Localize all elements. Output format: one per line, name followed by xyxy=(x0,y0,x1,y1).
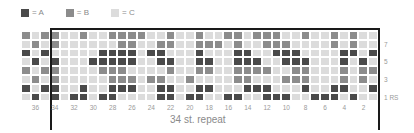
chart-cell xyxy=(31,75,41,84)
chart-cell xyxy=(40,84,50,93)
chart-cell xyxy=(40,40,50,49)
row-tick-label: 7 xyxy=(384,41,388,48)
chart-cell xyxy=(40,57,50,66)
column-tick-label: 30 xyxy=(83,104,103,111)
chart-cell xyxy=(21,49,31,58)
swatch-c xyxy=(111,9,119,17)
chart-cell xyxy=(40,31,50,40)
column-tick-label: 10 xyxy=(276,104,296,111)
chart-cell xyxy=(40,93,50,102)
column-tick-label: 34 xyxy=(45,104,65,111)
column-tick-label: 6 xyxy=(315,104,335,111)
legend: = A = B = C xyxy=(21,8,135,17)
column-tick-label: 4 xyxy=(334,104,354,111)
legend-item-c: = C xyxy=(111,8,135,17)
chart-cell xyxy=(21,31,31,40)
column-tick-label: 16 xyxy=(218,104,238,111)
column-tick-label: 8 xyxy=(296,104,316,111)
row-tick-label: 5 xyxy=(384,58,388,65)
chart-cell xyxy=(31,84,41,93)
row-tick-label: 3 xyxy=(384,76,388,83)
chart-cell xyxy=(21,75,31,84)
swatch-b xyxy=(66,9,74,17)
column-tick-label: 12 xyxy=(257,104,277,111)
column-tick-label: 26 xyxy=(122,104,142,111)
chart-cell xyxy=(21,84,31,93)
column-tick-label: 24 xyxy=(141,104,161,111)
column-tick-label: 28 xyxy=(103,104,123,111)
column-tick-label: 36 xyxy=(25,104,45,111)
chart-cell xyxy=(31,31,41,40)
legend-label-c: = C xyxy=(122,8,135,17)
chart-cell xyxy=(21,40,31,49)
swatch-a xyxy=(21,9,29,17)
column-tick-label: 32 xyxy=(64,104,84,111)
legend-label-a: = A xyxy=(32,8,44,17)
chart-cell xyxy=(31,66,41,75)
column-tick-label: 22 xyxy=(161,104,181,111)
chart-cell xyxy=(31,40,41,49)
chart-cell xyxy=(31,57,41,66)
column-tick-label: 18 xyxy=(199,104,219,111)
chart-cell xyxy=(40,75,50,84)
chart-cell xyxy=(31,49,41,58)
column-tick-label: 20 xyxy=(180,104,200,111)
row-tick-label: 1 RS xyxy=(384,94,398,101)
chart-cell xyxy=(21,57,31,66)
legend-label-b: = B xyxy=(77,8,89,17)
repeat-right-line xyxy=(378,28,380,130)
column-tick-label: 2 xyxy=(354,104,374,111)
repeat-outline xyxy=(50,28,380,104)
column-tick-label: 14 xyxy=(238,104,258,111)
chart-cell xyxy=(21,66,31,75)
legend-item-b: = B xyxy=(66,8,89,17)
legend-item-a: = A xyxy=(21,8,44,17)
chart-cell xyxy=(40,66,50,75)
chart-cell xyxy=(31,93,41,102)
chart-cell xyxy=(40,49,50,58)
repeat-label: 34 st. repeat xyxy=(170,114,226,125)
chart-cell xyxy=(21,93,31,102)
repeat-left-line xyxy=(50,28,52,130)
